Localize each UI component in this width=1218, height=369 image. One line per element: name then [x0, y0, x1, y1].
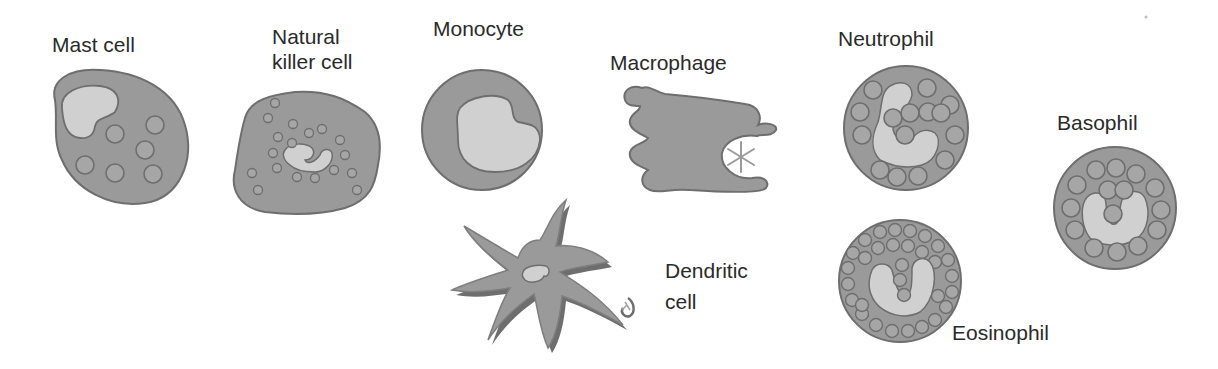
macrophage-illustration	[624, 87, 776, 192]
eosinophil-illustration	[839, 220, 961, 342]
mast-cell-illustration	[54, 70, 188, 204]
monocyte-illustration	[422, 70, 542, 190]
speck	[1145, 16, 1148, 19]
cell-diagram	[0, 0, 1218, 369]
neutrophil-illustration	[844, 66, 968, 190]
dendritic-cell-illustration	[452, 200, 634, 353]
basophil-illustration	[1054, 147, 1176, 269]
natural-killer-cell-illustration	[234, 92, 380, 214]
